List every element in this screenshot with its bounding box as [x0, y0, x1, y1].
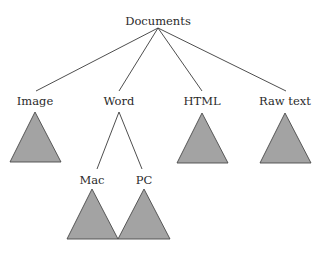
edge-documents-image [36, 28, 158, 91]
edge-documents-raw-text [158, 28, 286, 91]
root-edges [36, 28, 286, 91]
edge-documents-word [119, 28, 158, 91]
subtree-triangle-html [177, 113, 228, 163]
word-edges [97, 112, 142, 169]
node-html: HTML [183, 94, 220, 108]
node-word: Word [104, 94, 135, 108]
edge-documents-html [158, 28, 202, 91]
node-pc: PC [136, 173, 153, 187]
node-raw-text: Raw text [259, 94, 311, 108]
edge-word-pc [119, 112, 142, 169]
edge-word-mac [97, 112, 119, 169]
subtree-triangle-pc [118, 189, 170, 239]
node-image: Image [17, 94, 54, 108]
subtree-triangle-raw-text [260, 113, 311, 163]
node-mac: Mac [79, 173, 104, 187]
document-tree-diagram: Documents Image Word HTML Raw text Mac P… [0, 0, 329, 261]
subtree-triangle-mac [67, 189, 118, 239]
node-documents: Documents [125, 14, 191, 28]
subtree-triangle-image [10, 112, 61, 162]
